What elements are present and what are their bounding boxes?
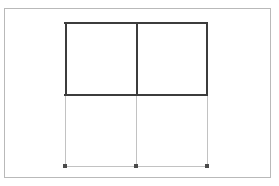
active-right-edge[interactable]: [206, 22, 208, 95]
diagram-canvas: [0, 0, 279, 186]
handle-bottom-center[interactable]: [134, 164, 138, 168]
ghost-left-edge[interactable]: [65, 95, 66, 166]
ghost-right-edge[interactable]: [207, 95, 208, 166]
handle-bottom-left[interactable]: [63, 164, 67, 168]
active-left-edge[interactable]: [65, 22, 67, 95]
grid-drawing: [0, 0, 279, 186]
handle-bottom-right[interactable]: [205, 164, 209, 168]
ghost-middle-divider[interactable]: [136, 95, 137, 166]
active-middle-divider[interactable]: [136, 22, 138, 95]
